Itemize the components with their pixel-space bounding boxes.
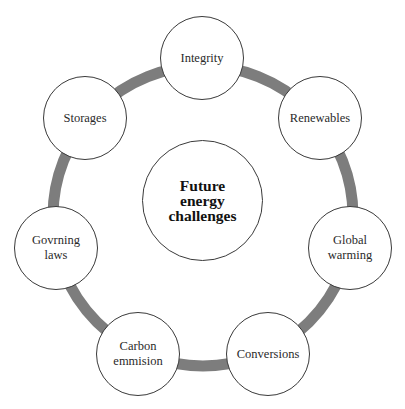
center-label: Future energy challenges: [168, 178, 236, 223]
node-conversions: Conversions: [226, 312, 310, 396]
node-label: Integrity: [180, 51, 223, 66]
node-label: Carbon emmision: [113, 339, 162, 369]
node-label: Govrning laws: [32, 233, 80, 263]
node-label: Storages: [63, 111, 106, 126]
node-renewables: Renewables: [278, 76, 362, 160]
node-integrity: Integrity: [160, 16, 244, 100]
node-label: Renewables: [290, 111, 350, 126]
node-label: Conversions: [237, 347, 300, 362]
node-governing-laws: Govrning laws: [14, 206, 98, 290]
center-node: Future energy challenges: [142, 140, 263, 261]
node-global-warming: Global warming: [308, 206, 392, 290]
node-label: Global warming: [328, 233, 372, 263]
node-storages: Storages: [43, 76, 127, 160]
node-carbon-emission: Carbon emmision: [96, 312, 180, 396]
energy-challenges-diagram: Future energy challenges Integrity Renew…: [0, 0, 405, 409]
